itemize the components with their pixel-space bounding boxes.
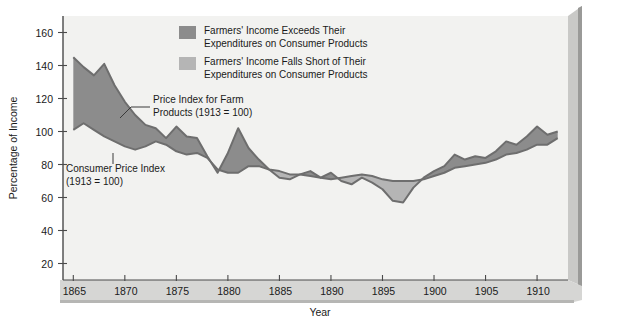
annotation-farm-line2: Products (1913 = 100) — [153, 107, 252, 118]
x-tick-label: 1895 — [372, 285, 396, 297]
y-tick-label: 160 — [35, 27, 53, 39]
annotation-farm-line1: Price Index for Farm — [153, 94, 244, 105]
chart-canvas: 20406080100120140160 1865187018751880188… — [0, 0, 627, 320]
x-tick-label: 1890 — [320, 285, 344, 297]
legend-swatch-short — [179, 57, 196, 70]
y-axis-title: Percentage of Income — [7, 96, 19, 199]
y-tick-label: 80 — [41, 159, 53, 171]
y-tick-label: 140 — [35, 60, 53, 72]
annotation-cpi-line2: (1913 = 100) — [66, 176, 123, 187]
y-tick-label: 120 — [35, 93, 53, 105]
y-tick-label: 100 — [35, 126, 53, 138]
x-tick-label: 1905 — [475, 285, 499, 297]
legend-label-short-line2: Expenditures on Consumer Products — [204, 69, 367, 80]
x-tick-label: 1870 — [114, 285, 138, 297]
legend-swatch-exceeds — [179, 26, 196, 39]
y-axis-ticks: 20406080100120140160 — [35, 27, 67, 270]
x-axis-band-shadow — [60, 300, 574, 303]
legend-label-exceeds-line2: Expenditures on Consumer Products — [204, 38, 367, 49]
y-tick-label: 20 — [41, 258, 53, 270]
x-tick-label: 1885 — [269, 285, 293, 297]
chart-figure: 20406080100120140160 1865187018751880188… — [0, 0, 627, 320]
x-tick-label: 1910 — [526, 285, 550, 297]
x-tick-label: 1875 — [166, 285, 190, 297]
x-tick-label: 1865 — [63, 285, 87, 297]
x-axis-title: Year — [309, 306, 331, 318]
x-tick-label: 1900 — [423, 285, 447, 297]
legend-label-short-line1: Farmers' Income Falls Short of Their — [204, 56, 366, 67]
annotation-cpi-line1: Consumer Price Index — [66, 163, 165, 174]
y-tick-label: 40 — [41, 225, 53, 237]
legend-label-exceeds-line1: Farmers' Income Exceeds Their — [204, 25, 346, 36]
panel-right-edge-dark — [578, 6, 582, 288]
y-tick-label: 60 — [41, 192, 53, 204]
x-tick-label: 1880 — [217, 285, 241, 297]
